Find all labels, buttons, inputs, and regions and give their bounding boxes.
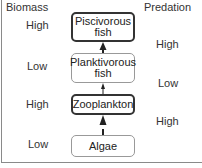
energy-flow-arrows bbox=[0, 0, 202, 168]
arrow-thin-icon bbox=[101, 83, 105, 94]
arrow-bold-icon bbox=[100, 42, 107, 53]
arrow-bold-icon bbox=[100, 115, 107, 135]
